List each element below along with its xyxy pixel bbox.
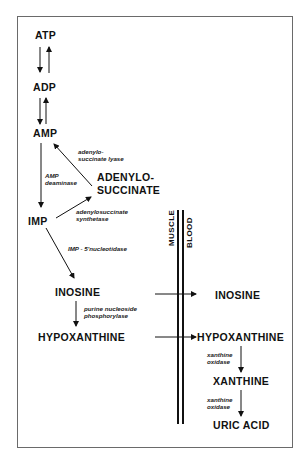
compartment-label-blood: BLOOD [185, 217, 194, 248]
enzyme-purine-nucleoside-phosphorylase: purine nucleoside phosphorylase [84, 305, 137, 320]
enzyme-label-line: xanthine [207, 351, 232, 358]
enzyme-xanthine-oxidase-2: xanthine oxidase [207, 396, 232, 411]
node-atp: ATP [35, 30, 56, 41]
node-inosine-blood: INOSINE [215, 290, 260, 301]
enzyme-label-line: synthetase [76, 215, 128, 222]
node-adp: ADP [33, 82, 56, 93]
enzyme-adenylosuccinate-lyase: adenylo- succinate lyase [78, 148, 124, 163]
node-amp: AMP [33, 128, 57, 139]
node-hypoxanthine-blood: HYPOXANTHINE [197, 332, 284, 343]
enzyme-label-line: AMP [45, 172, 77, 179]
enzyme-label-line: phosphorylase [84, 312, 137, 319]
arrows-layer [0, 0, 307, 462]
compartment-label-muscle: MUSCLE [167, 210, 176, 246]
enzyme-label-line: oxidase [207, 358, 232, 365]
enzyme-adenylosuccinate-synthetase: adenylosuccinate synthetase [76, 208, 128, 223]
enzyme-label-line: adenylo- [78, 148, 124, 155]
enzyme-amp-deaminase: AMP deaminase [45, 172, 77, 187]
node-xanthine: XANTHINE [213, 376, 269, 387]
enzyme-label-line: xanthine [207, 396, 232, 403]
enzyme-label-line: adenylosuccinate [76, 208, 128, 215]
node-adenylosuccinate-line1: ADENYLO- [97, 172, 154, 183]
node-hypoxanthine-muscle: HYPOXANTHINE [38, 332, 125, 343]
node-uric-acid: URIC ACID [213, 420, 270, 431]
enzyme-label-line: purine nucleoside [84, 305, 137, 312]
enzyme-xanthine-oxidase-1: xanthine oxidase [207, 351, 232, 366]
node-imp: IMP [28, 216, 48, 227]
enzyme-label-line: succinate lyase [78, 155, 124, 162]
node-inosine-muscle: INOSINE [55, 287, 100, 298]
enzyme-label-line: deaminase [45, 179, 77, 186]
enzyme-label-line: oxidase [207, 403, 232, 410]
node-adenylosuccinate-line2: SUCCINATE [97, 185, 160, 196]
enzyme-imp-5-nucleotidase: IMP - 5'nucleotidase [68, 245, 127, 252]
